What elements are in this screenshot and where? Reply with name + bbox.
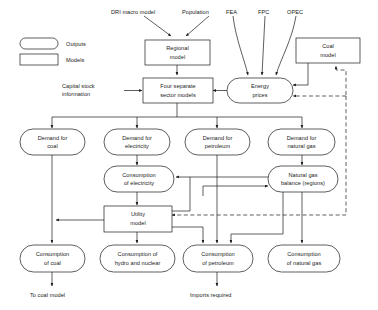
node-utility-model-line2: model (130, 220, 146, 226)
legend-models-swatch (20, 54, 58, 65)
node-regional-model: Regional model (145, 40, 210, 65)
node-consumption-hydro-nuclear: Consumption of hydro and nuclear (100, 245, 175, 272)
node-consumption-hydro-nuclear-shape (100, 245, 175, 272)
node-demand-coal-shape (20, 129, 85, 155)
annotation-to-coal-model: To coal model (30, 292, 65, 298)
node-consumption-hydro-nuclear-line2: hydro and nuclear (115, 260, 161, 266)
node-demand-natural-gas-line2: natural gas (287, 143, 315, 149)
node-four-sector-models-line2: sector models (160, 92, 196, 98)
node-consumption-coal-line1: Consumption (36, 251, 70, 257)
edge-utility-to-consumption-petroleum (172, 227, 203, 243)
flow-diagram-canvas: Outputs Models DRI macro model Populatio… (0, 0, 378, 310)
annotation-capital-stock-line1: Capital stock (62, 83, 95, 89)
node-demand-natural-gas-shape (268, 129, 335, 155)
node-consumption-natural-gas-line1: Consumption (287, 251, 321, 257)
edge-opec-to-energy-prices (276, 16, 296, 75)
node-natural-gas-balance: Natural gas balance (regions) (268, 166, 338, 192)
node-coal-model-shape (296, 38, 360, 63)
node-consumption-electricity: Consumption of electricity (104, 166, 174, 192)
node-consumption-natural-gas: Consumption of natural gas (268, 245, 340, 272)
node-four-sector-models: Four separate sector models (143, 78, 213, 103)
node-coal-model-line1: Coal (322, 43, 334, 49)
node-consumption-electricity-line1: Consumption (122, 172, 156, 178)
node-consumption-natural-gas-line2: of natural gas (287, 260, 322, 266)
edge-fpc-to-energy-prices (262, 16, 265, 75)
node-demand-petroleum: Demand for petroleum (185, 129, 250, 155)
edge-population-to-regional (186, 16, 209, 36)
node-regional-model-shape (145, 40, 210, 65)
input-population-label: Population (182, 9, 209, 15)
legend-models-label: Models (66, 57, 84, 63)
node-consumption-coal-line2: of coal (44, 260, 61, 266)
node-demand-petroleum-shape (185, 129, 250, 155)
node-consumption-coal: Consumption of coal (20, 245, 85, 272)
node-energy-prices-line2: prices (252, 92, 267, 98)
node-demand-coal-line2: coal (47, 143, 57, 149)
legend-outputs-label: Outputs (66, 41, 86, 47)
node-natural-gas-balance-line1: Natural gas (288, 172, 317, 178)
node-consumption-coal-shape (20, 245, 85, 272)
node-consumption-hydro-nuclear-line1: Consumption of (118, 251, 158, 257)
input-dri-macro-model-label: DRI macro model (111, 9, 155, 15)
node-demand-coal: Demand for coal (20, 129, 85, 155)
edge-balance-left-down-to-petroleum (231, 192, 283, 243)
node-energy-prices-line1: Energy (251, 83, 269, 89)
node-coal-model-line2: model (320, 52, 336, 58)
input-fea-label: FEA (226, 9, 237, 15)
edge-fea-to-energy-prices (233, 16, 248, 75)
node-energy-prices: Energy prices (227, 78, 293, 103)
edge-dashed-to-coal-model (336, 66, 346, 95)
annotation-imports-required: Imports required (190, 292, 232, 298)
energy-model-flow-diagram: Outputs Models DRI macro model Populatio… (0, 0, 378, 310)
edge-dri-to-regional (144, 16, 171, 36)
input-opec-label: OPEC (287, 9, 303, 15)
edge-coal-model-to-energy-prices (293, 63, 308, 85)
input-fpc-label: FPC (258, 9, 269, 15)
node-consumption-petroleum: Consumption of petroleum (183, 245, 253, 272)
node-natural-gas-balance-line2: balance (regions) (281, 180, 325, 186)
annotation-capital-stock-line2: information (62, 91, 90, 97)
node-demand-electricity-line1: Demand for (122, 135, 152, 141)
node-demand-electricity-shape (104, 129, 170, 155)
node-consumption-electricity-shape (104, 166, 174, 192)
edge-petroleum-area-to-balance (203, 186, 268, 196)
legend-outputs-swatch (20, 38, 58, 49)
node-regional-model-line1: Regional (166, 45, 188, 51)
node-demand-petroleum-line2: petroleum (205, 143, 231, 149)
node-demand-petroleum-line1: Demand for (203, 135, 233, 141)
node-natural-gas-balance-shape (268, 166, 338, 192)
node-demand-natural-gas-line1: Demand for (287, 135, 317, 141)
node-demand-coal-line1: Demand for (38, 135, 68, 141)
node-demand-electricity: Demand for electricity (104, 129, 170, 155)
edge-utility-to-balance-riser (172, 177, 190, 211)
node-energy-prices-shape (227, 78, 293, 103)
node-demand-electricity-line2: electricity (125, 143, 149, 149)
node-consumption-petroleum-shape (183, 245, 253, 272)
node-regional-model-line2: model (170, 54, 186, 60)
node-consumption-petroleum-line1: Consumption (201, 251, 235, 257)
node-coal-model: Coal model (296, 38, 360, 63)
node-utility-model-line1: Utility (131, 211, 145, 217)
node-four-sector-models-line1: Four separate (160, 83, 195, 89)
node-consumption-natural-gas-shape (268, 245, 340, 272)
node-demand-natural-gas: Demand for natural gas (268, 129, 335, 155)
node-consumption-electricity-line2: of electricity (124, 180, 154, 186)
node-four-sector-models-shape (143, 78, 213, 103)
edge-dashed-right-bus (172, 96, 346, 215)
node-utility-model: Utility model (104, 206, 172, 232)
node-consumption-petroleum-line2: of petroleum (202, 260, 234, 266)
